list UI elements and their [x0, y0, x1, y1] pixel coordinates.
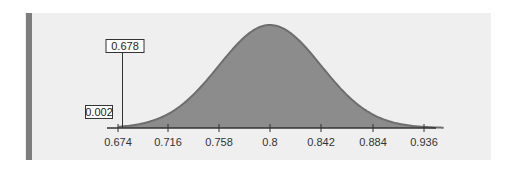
normal-curve-chart: 0.674 0.716 0.758 0.8 0.842 0.884 0.936 … — [0, 0, 514, 170]
tick-label: 0.674 — [104, 136, 132, 148]
x-axis-tick-labels: 0.674 0.716 0.758 0.8 0.842 0.884 0.936 — [104, 136, 438, 148]
tick-label: 0.758 — [205, 136, 233, 148]
tick-label: 0.936 — [410, 136, 438, 148]
tail-area-label-box: 0.002 — [85, 106, 113, 119]
tick-label: 0.716 — [154, 136, 182, 148]
tick-label: 0.8 — [262, 136, 277, 148]
cutoff-value: 0.678 — [111, 40, 139, 52]
tail-area-value: 0.002 — [85, 106, 113, 118]
cutoff-label-box: 0.678 — [106, 40, 144, 53]
tick-label: 0.884 — [359, 136, 387, 148]
tick-label: 0.842 — [307, 136, 335, 148]
